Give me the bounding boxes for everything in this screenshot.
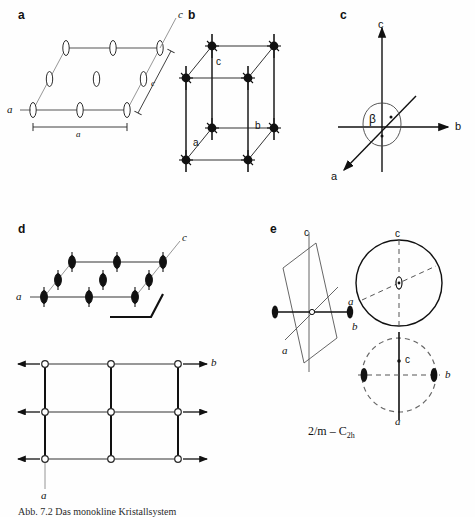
- point-group-separator: –: [330, 424, 336, 438]
- panel-e-stereo-bottom-c-label: c: [405, 354, 410, 365]
- panel-c-axis-a-label: a: [331, 170, 337, 182]
- panel-label-e: e: [270, 222, 277, 236]
- panel-c-beta-angle-label: β: [369, 112, 376, 126]
- panel-e-axis-b-label: b: [352, 320, 358, 332]
- panel-d-plan-drawing: [18, 361, 207, 489]
- panel-b-axis-c-label: c: [216, 56, 221, 67]
- panel-b-axis-b-label: b: [255, 120, 261, 131]
- panel-a-dimension-a-label: a: [76, 129, 81, 139]
- panel-d-plan-axis-b-label: b: [211, 356, 217, 368]
- panel-a-drawing: [20, 18, 176, 127]
- panel-label-a: a: [18, 8, 25, 22]
- panel-e-stereogram-top: [356, 240, 442, 326]
- panel-label-d: d: [18, 222, 25, 236]
- panel-a-axis-c-label: c: [178, 8, 183, 20]
- panel-e-axis-c-label: c: [304, 227, 309, 238]
- panel-c-drawing: [338, 28, 448, 172]
- panel-b-axis-a-label: a: [193, 137, 199, 148]
- panel-c-axis-c-label: c: [378, 18, 384, 30]
- panel-b-drawing: [179, 34, 281, 172]
- panel-d-axis-a-label: a: [16, 290, 22, 302]
- panel-a-edge-c-label: c: [151, 78, 155, 88]
- panel-d-axis-c-label: c: [182, 231, 187, 243]
- panel-d-cell-drawing: [30, 241, 180, 317]
- panel-e-stereo-bottom-b-label: b: [445, 368, 451, 380]
- panel-d-plan-axis-a-label: a: [41, 489, 47, 501]
- point-group-schoenflies-subscript: 2h: [347, 431, 355, 440]
- point-group-symbol: 2/m–C2h: [308, 424, 355, 440]
- panel-e-stereo-bottom-a-label: a: [395, 415, 401, 427]
- panel-label-b: b: [188, 8, 195, 22]
- panel-e-axis-a-label: a: [282, 344, 288, 356]
- figure-drawing: [0, 0, 475, 517]
- crystallography-figure: a b c d e: [0, 0, 475, 517]
- figure-caption: Abb. 7.2 Das monokline Kristallsystem: [18, 506, 176, 517]
- point-group-schoenflies: C: [339, 424, 347, 438]
- point-group-hermann-mauguin: 2/m: [308, 424, 327, 438]
- panel-e-stereo-top-c-label: c: [395, 228, 400, 239]
- panel-e-stereo-top-a-label: a: [348, 295, 354, 307]
- panel-c-axis-b-label: b: [455, 120, 461, 132]
- panel-a-axis-a-label: a: [7, 103, 13, 115]
- panel-label-c: c: [340, 8, 347, 22]
- panel-e-stereogram-bottom: [358, 332, 440, 420]
